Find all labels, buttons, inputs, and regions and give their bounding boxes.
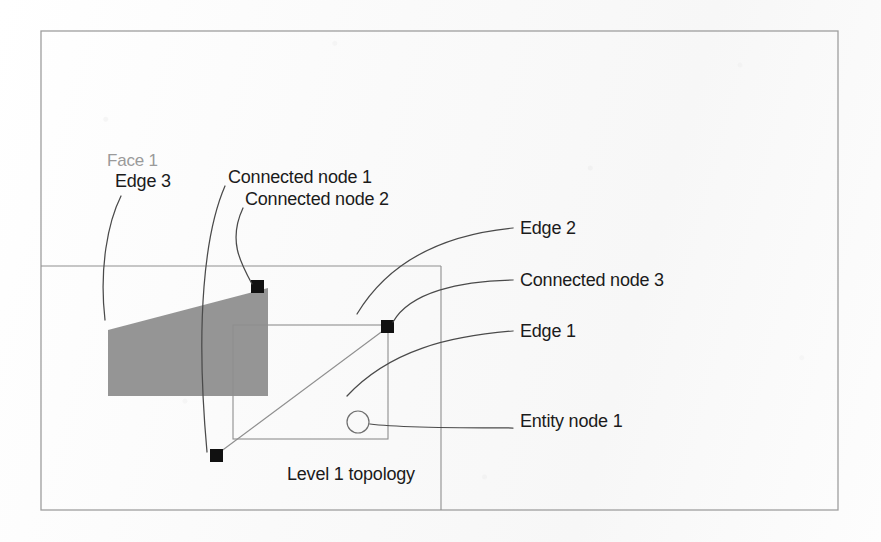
leader-connected-node-2 — [236, 208, 252, 284]
label-connected-node-3: Connected node 3 — [520, 270, 664, 291]
label-edge-3: Edge 3 — [115, 171, 171, 192]
label-edge-1: Edge 1 — [520, 321, 576, 342]
leader-connected-node-3 — [393, 280, 513, 322]
leader-edge-2 — [357, 228, 513, 314]
diagram-canvas: Face 1 Edge 3 Connected node 1 Connected… — [0, 0, 881, 542]
connected-node-1-marker — [251, 280, 264, 293]
face-1-polygon — [108, 288, 268, 396]
label-edge-2: Edge 2 — [520, 218, 576, 239]
label-face-1: Face 1 — [107, 151, 158, 171]
leader-edge-1 — [347, 331, 513, 396]
label-connected-node-1: Connected node 1 — [228, 167, 372, 188]
connected-node-2-marker — [210, 449, 223, 462]
topology-figure — [0, 0, 881, 542]
label-entity-node-1: Entity node 1 — [520, 411, 622, 432]
figure-caption: Level 1 topology — [287, 464, 415, 485]
connected-node-3-marker — [381, 320, 394, 333]
entity-node-1-circle — [347, 411, 369, 433]
label-connected-node-2: Connected node 2 — [245, 189, 389, 210]
outer-frame-rect — [41, 31, 838, 510]
leader-edge-3 — [103, 196, 121, 320]
